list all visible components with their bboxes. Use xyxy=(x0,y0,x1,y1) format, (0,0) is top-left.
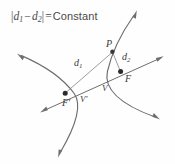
left-branch-upper-arrowhead xyxy=(17,54,24,61)
axis-lower-left-arrowhead xyxy=(40,107,48,113)
formula-title: |d1−d2|=Constant xyxy=(11,10,98,24)
axis-upper-right-arrowhead xyxy=(156,56,164,62)
hyperbola-drawing-canvas xyxy=(0,0,175,164)
label-d1-subscript: 1 xyxy=(79,62,82,69)
right-branch-lower-arrowhead xyxy=(152,113,160,119)
label-distance-d2: d2 xyxy=(122,52,130,64)
label-focus-F-prime: F′ xyxy=(62,98,70,108)
label-distance-d1: d1 xyxy=(74,58,82,70)
label-focus-F: F xyxy=(125,74,131,84)
label-point-P: P xyxy=(106,39,112,49)
equals-operator: = xyxy=(44,10,53,22)
hyperbola-right-branch xyxy=(107,16,155,118)
left-branch-lower-arrowhead xyxy=(58,149,62,157)
focus-point-F-dot xyxy=(118,69,123,74)
right-branch-upper-arrowhead xyxy=(133,10,137,19)
hyperbola-figure: |d1−d2|=Constant P d1 d2 F F′ V V′ xyxy=(0,0,175,164)
label-vertex-V-prime: V′ xyxy=(80,95,87,104)
segment-d2 xyxy=(113,53,120,71)
constant-word: Constant xyxy=(53,10,98,22)
minus-operator: − xyxy=(23,10,32,22)
point-P-dot xyxy=(110,50,114,54)
label-vertex-V: V xyxy=(102,84,108,93)
focus-point-F-prime-dot xyxy=(63,91,68,96)
label-d2-subscript: 2 xyxy=(127,56,130,63)
